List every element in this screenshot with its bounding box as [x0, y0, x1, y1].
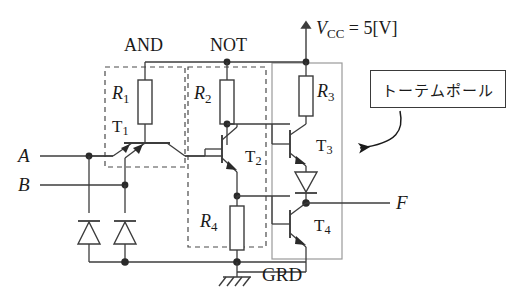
t4-emitter-arrow: [295, 236, 306, 245]
resistor-r2-body: [220, 80, 234, 124]
annotation-curved-arrow: [360, 111, 401, 148]
junction-dot-ground-b: [121, 258, 129, 266]
resistor-r1-body: [138, 80, 152, 124]
label-output-f: F: [396, 193, 408, 212]
t2-collector-diag: [222, 127, 237, 140]
label-input-a: A: [18, 146, 30, 165]
label-vcc: VCC = 5[V]: [316, 19, 397, 41]
label-resistor-r4: R4: [200, 212, 217, 234]
ground-symbol-hatch-1: [219, 277, 226, 286]
label-input-b: B: [18, 175, 30, 194]
t1-emitter1-arrow: [121, 144, 130, 153]
t3-emitter-arrow: [295, 156, 306, 164]
label-transistor-t3: T3: [316, 137, 333, 157]
resistor-r3-body: [299, 76, 313, 116]
annotation-box-text: トーテムポール: [382, 79, 494, 100]
ground-symbol-hatch-4: [243, 277, 250, 286]
ground-symbol-hatch-2: [227, 277, 234, 286]
circuit-diagram-root: AND NOT VCC = 5[V] R1 R2 R3 R4 T1 T2 T3 …: [0, 0, 516, 306]
label-grd: GRD: [262, 265, 302, 284]
label-resistor-r1: R1: [112, 84, 129, 106]
ground-symbol-hatch-3: [235, 277, 242, 286]
t3-collector-diag: [290, 124, 306, 135]
label-and-stage: AND: [124, 36, 163, 54]
resistor-r4-body: [230, 206, 244, 250]
label-resistor-r2: R2: [194, 84, 211, 106]
t4-collector-diag: [290, 203, 306, 215]
annotation-box-totem-pole: トーテムポール: [370, 70, 506, 108]
label-not-stage: NOT: [210, 36, 247, 54]
clamp-diode-1-triangle: [78, 222, 100, 244]
t1-emitter2-arrow: [133, 144, 143, 154]
t2-emitter-arrow: [226, 161, 237, 170]
clamp-diode-2-triangle: [114, 222, 136, 244]
t1-collector-lead-a: [167, 143, 185, 156]
label-transistor-t4: T4: [314, 217, 331, 237]
label-resistor-r3: R3: [317, 82, 334, 104]
label-transistor-t1: T1: [112, 118, 129, 138]
level-shift-diode-triangle: [295, 172, 317, 192]
label-transistor-t2: T2: [245, 148, 262, 168]
